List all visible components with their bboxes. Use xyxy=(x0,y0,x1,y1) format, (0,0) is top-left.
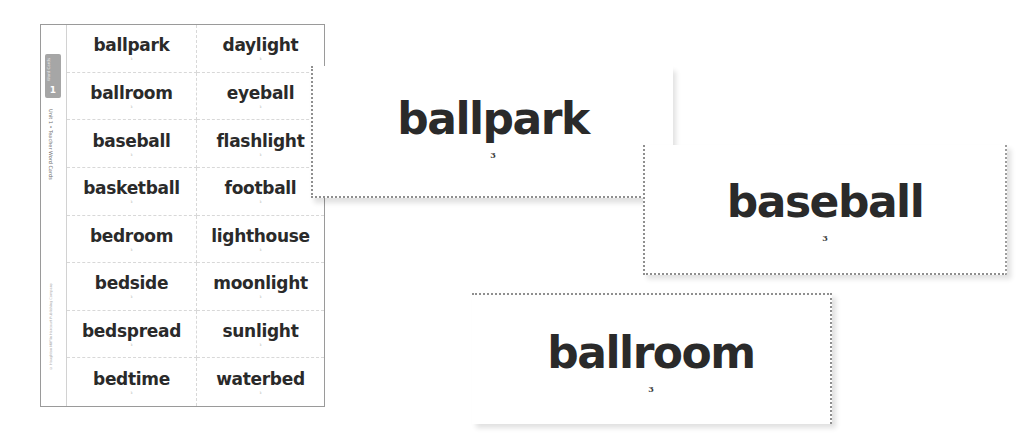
word-cell: football 3 xyxy=(197,168,324,216)
word-cell: ballpark 3 xyxy=(67,25,197,73)
word-text: bedroom xyxy=(90,228,173,245)
word-cell: moonlight 3 xyxy=(197,263,324,311)
word-text: lighthouse xyxy=(211,228,310,245)
word-cell: waterbed 3 xyxy=(197,358,324,406)
sheet-title: Unit 1 • Teacher Word Cards xyxy=(48,109,53,180)
word-text: ballpark xyxy=(93,37,169,54)
word-text: bedspread xyxy=(82,323,181,340)
word-text: ballroom xyxy=(90,85,172,102)
word-text: daylight xyxy=(223,37,299,54)
word-text: football xyxy=(225,180,297,197)
card-word: ballpark xyxy=(397,97,589,141)
unit-badge-number: 1 xyxy=(50,86,56,95)
card-number: 3 xyxy=(260,201,262,204)
unit-badge-label: Word Cards xyxy=(47,58,51,81)
word-cell: bedtime 3 xyxy=(67,358,197,406)
word-text: eyeball xyxy=(227,85,294,102)
card-word: baseball xyxy=(727,180,924,224)
word-cell: bedside 3 xyxy=(67,263,197,311)
word-cell: basketball 3 xyxy=(67,168,197,216)
word-card-baseball: baseball 3 xyxy=(643,145,1007,275)
word-card-sheet: Word Cards 1 Unit 1 • Teacher Word Cards… xyxy=(40,24,325,407)
card-number: 3 xyxy=(131,154,133,157)
word-card-ballpark: ballpark 3 xyxy=(311,66,673,198)
card-number: 3 xyxy=(131,249,133,252)
card-number: 3 xyxy=(260,249,262,252)
card-number: 3 xyxy=(260,58,262,61)
word-cell: bedspread 3 xyxy=(67,311,197,359)
word-grid: ballpark 3 daylight 3 ballroom 3 eyeball… xyxy=(67,25,324,406)
word-cell: ballroom 3 xyxy=(67,73,197,121)
card-number: 3 xyxy=(260,106,262,109)
word-text: baseball xyxy=(92,133,170,150)
card-number: 3 xyxy=(260,344,262,347)
word-text: basketball xyxy=(83,180,180,197)
card-number: 3 xyxy=(131,344,133,347)
card-word: ballroom xyxy=(547,331,754,375)
word-cell: lighthouse 3 xyxy=(197,216,324,264)
card-number: 3 xyxy=(648,385,654,393)
word-text: bedtime xyxy=(93,371,170,388)
word-cell: eyeball 3 xyxy=(197,73,324,121)
word-cell: flashlight 3 xyxy=(197,120,324,168)
word-text: bedside xyxy=(95,275,168,292)
word-text: waterbed xyxy=(216,371,305,388)
card-number: 3 xyxy=(490,151,496,159)
sheet-side-strip: Word Cards 1 Unit 1 • Teacher Word Cards… xyxy=(41,25,67,406)
card-number: 3 xyxy=(260,296,262,299)
card-number: 3 xyxy=(131,296,133,299)
card-number: 3 xyxy=(131,201,133,204)
unit-badge: Word Cards 1 xyxy=(45,54,61,98)
word-text: moonlight xyxy=(213,275,308,292)
word-cell: baseball 3 xyxy=(67,120,197,168)
word-card-ballroom: ballroom 3 xyxy=(472,293,832,424)
word-cell: bedroom 3 xyxy=(67,216,197,264)
card-number: 3 xyxy=(131,392,133,395)
card-number: 3 xyxy=(260,154,262,157)
card-number: 3 xyxy=(822,234,828,242)
word-text: flashlight xyxy=(217,133,305,150)
word-cell: sunlight 3 xyxy=(197,311,324,359)
card-number: 3 xyxy=(260,392,262,395)
word-cell: daylight 3 xyxy=(197,25,324,73)
copyright-text: © Houghton Mifflin Harcourt Publishing C… xyxy=(50,283,54,370)
card-number: 3 xyxy=(131,58,133,61)
card-number: 3 xyxy=(131,106,133,109)
word-text: sunlight xyxy=(223,323,299,340)
